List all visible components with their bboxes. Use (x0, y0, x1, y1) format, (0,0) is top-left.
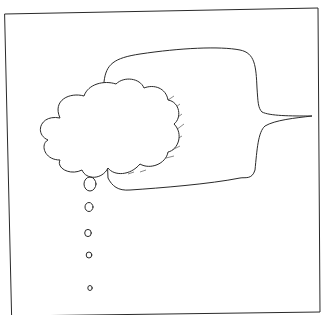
thought-dot-1 (84, 177, 96, 191)
thought-dots (84, 177, 96, 291)
thought-dot-5 (88, 286, 92, 291)
illustration-canvas (0, 0, 321, 315)
thought-dot-2 (85, 203, 93, 212)
thought-dot-3 (85, 229, 92, 236)
thought-dot-4 (86, 252, 92, 258)
thought-cloud (40, 79, 179, 177)
